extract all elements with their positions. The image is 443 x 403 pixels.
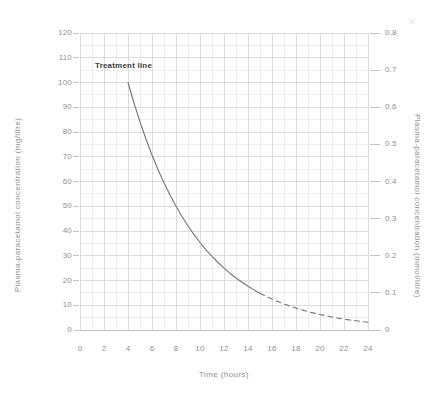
- y-left-tick-label: 120: [40, 28, 72, 38]
- x-tick-label: 0: [69, 344, 91, 354]
- y-left-tick-label: 100: [40, 78, 72, 88]
- y-left-tick-label: 0: [40, 325, 72, 335]
- x-tick-label: 12: [213, 344, 235, 354]
- treatment-line-chart: Plasma-paracetamol concentration (mg/lit…: [0, 0, 443, 403]
- y-right-tick-label: 0: [385, 325, 390, 335]
- y-left-tick-label: 70: [40, 152, 72, 162]
- y-left-tick-label: 30: [40, 251, 72, 261]
- y-left-tick-label: 50: [40, 201, 72, 211]
- y-left-tick-label: 60: [40, 177, 72, 187]
- x-tick-label: 22: [333, 344, 355, 354]
- y-right-tick-label: 0.4: [385, 177, 397, 187]
- x-tick-label: 8: [165, 344, 187, 354]
- y-axis-title-right: Plasma-paracetamol concentration (mmol/l…: [413, 114, 422, 298]
- y-axis-title-left: Plasma-paracetamol concentration (mg/lit…: [13, 118, 22, 293]
- x-tick-label: 20: [309, 344, 331, 354]
- x-tick-label: 14: [237, 344, 259, 354]
- x-tick-label: 16: [261, 344, 283, 354]
- y-right-tick-label: 0.2: [385, 251, 397, 261]
- x-tick-label: 2: [93, 344, 115, 354]
- y-left-tick-label: 80: [40, 127, 72, 137]
- y-left-tick-label: 20: [40, 276, 72, 286]
- y-right-tick-label: 0.6: [385, 102, 397, 112]
- treatment-line-solid: [128, 83, 260, 294]
- x-tick-label: 24: [357, 344, 379, 354]
- x-tick-label: 18: [285, 344, 307, 354]
- y-right-tick-label: 0.3: [385, 214, 397, 224]
- x-tick-label: 6: [141, 344, 163, 354]
- y-right-tick-label: 0.7: [385, 65, 397, 75]
- y-left-tick-label: 90: [40, 102, 72, 112]
- y-right-tick-label: 0.1: [385, 288, 397, 298]
- y-left-tick-label: 40: [40, 226, 72, 236]
- x-tick-label: 4: [117, 344, 139, 354]
- y-left-tick-label: 110: [40, 53, 72, 63]
- y-left-tick-label: 10: [40, 300, 72, 310]
- y-right-tick-label: 0.8: [385, 28, 397, 38]
- y-right-tick-label: 0.5: [385, 139, 397, 149]
- treatment-line-label: Treatment line: [95, 61, 152, 70]
- x-axis-title: Time (hours): [199, 370, 249, 379]
- x-tick-label: 10: [189, 344, 211, 354]
